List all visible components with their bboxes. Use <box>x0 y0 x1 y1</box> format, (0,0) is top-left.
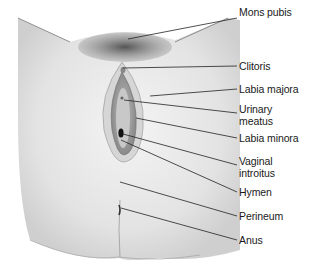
label-labia-minora: Labia minora <box>239 132 299 144</box>
label-perineum: Perineum <box>239 210 283 222</box>
label-anus: Anus <box>239 234 263 246</box>
vaginal-introitus-region <box>118 129 123 138</box>
label-labia-majora: Labia majora <box>239 83 299 95</box>
label-mons-pubis: Mons pubis <box>239 6 292 18</box>
label-hymen: Hymen <box>239 186 272 198</box>
mons-pubis-region <box>78 32 172 62</box>
label-vaginal-introitus: Vaginal introitus <box>239 155 275 179</box>
urinary-meatus-region <box>120 96 123 99</box>
label-urinary-meatus: Urinary meatus <box>239 103 273 127</box>
label-clitoris: Clitoris <box>239 60 270 72</box>
